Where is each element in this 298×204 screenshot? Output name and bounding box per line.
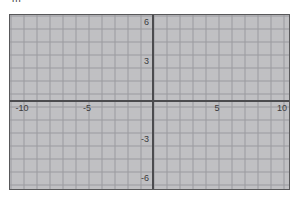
x-tick-label-neg5: -5	[83, 103, 91, 113]
coordinate-grid-graph: iii -10 -5 5 10 6 3 -3 -6	[0, 0, 298, 204]
major-gridlines	[10, 15, 289, 189]
x-tick-label-pos5: 5	[214, 103, 219, 113]
plot-area: -10 -5 5 10 6 3 -3 -6	[9, 14, 290, 190]
y-tick-label-pos3: 3	[139, 56, 149, 66]
y-tick-label-neg6: -6	[134, 173, 149, 183]
x-axis-line	[10, 100, 289, 102]
minor-gridlines	[10, 15, 289, 189]
x-tick-label-neg10: -10	[15, 103, 28, 113]
clipped-top-text: iii	[12, 0, 32, 4]
y-tick-label-pos6: 6	[139, 17, 149, 27]
y-axis-line	[152, 15, 154, 189]
x-tick-label-pos10: 10	[277, 103, 287, 113]
y-tick-label-neg3: -3	[134, 134, 149, 144]
